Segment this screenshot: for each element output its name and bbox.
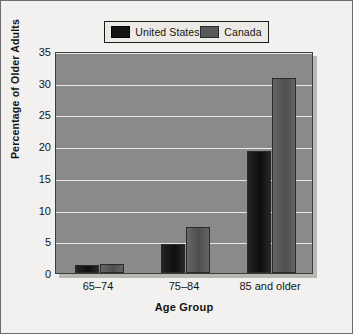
chart-legend: United States Canada <box>104 21 269 43</box>
bars-layer <box>56 53 312 273</box>
y-tick-label: 30 <box>5 78 51 90</box>
legend-label-canada: Canada <box>224 26 261 38</box>
x-axis-label: Age Group <box>55 301 313 313</box>
x-tick-label: 75–84 <box>169 280 200 292</box>
y-tick-label: 10 <box>5 205 51 217</box>
y-tick-label: 20 <box>5 141 51 153</box>
bar <box>186 227 210 273</box>
y-axis-ticks: 05101520253035 <box>1 52 51 274</box>
chart-figure: United States Canada Percentage of Older… <box>0 0 353 334</box>
legend-label-united-states: United States <box>135 26 199 38</box>
plot-area <box>55 52 313 274</box>
y-tick-label: 15 <box>5 173 51 185</box>
bar <box>247 151 271 273</box>
bar <box>272 78 296 273</box>
bar <box>100 264 124 273</box>
y-tick-label: 25 <box>5 109 51 121</box>
bar-group <box>75 53 124 273</box>
legend-entry-united-states: United States <box>111 26 199 38</box>
bar <box>161 244 185 273</box>
bar-group <box>247 53 296 273</box>
bar <box>75 265 99 273</box>
x-tick-label: 65–74 <box>83 280 114 292</box>
x-axis-ticks: 65–7475–8485 and older <box>55 280 313 296</box>
bar-group <box>161 53 210 273</box>
legend-swatch-united-states <box>111 26 130 38</box>
x-tick-label: 85 and older <box>239 280 300 292</box>
legend-swatch-canada <box>200 26 219 38</box>
y-tick-label: 0 <box>5 268 51 280</box>
y-tick-label: 5 <box>5 236 51 248</box>
legend-entry-canada: Canada <box>200 26 261 38</box>
y-tick-label: 35 <box>5 46 51 58</box>
